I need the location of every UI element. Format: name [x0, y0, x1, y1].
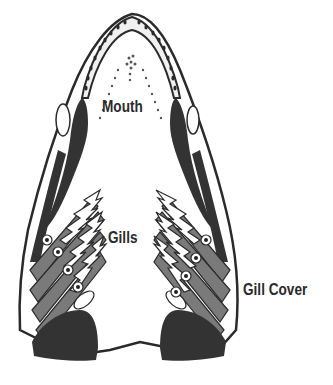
- shark-head-illustration: [0, 0, 333, 385]
- left-nostril: [56, 104, 70, 136]
- mouth-label: Mouth: [102, 98, 143, 116]
- right-nostril: [187, 106, 199, 134]
- gills-label: Gills: [108, 229, 137, 247]
- shark-head-diagram: Mouth Gills Gill Cover: [0, 0, 333, 385]
- gill-cover-label: Gill Cover: [243, 281, 307, 299]
